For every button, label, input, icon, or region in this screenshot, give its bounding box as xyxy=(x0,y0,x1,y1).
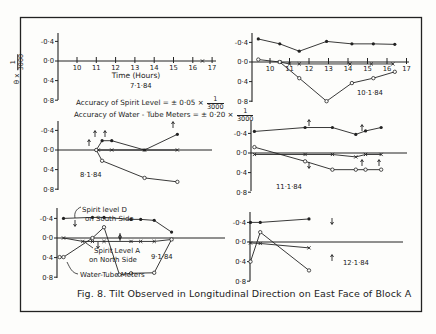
y-axis-fraction: 13000 xyxy=(10,54,24,71)
marker-filled xyxy=(153,219,156,222)
y-tick-label: -0·4 xyxy=(235,39,248,47)
event-arrow-icon xyxy=(94,131,97,138)
event-arrow-icon xyxy=(361,160,364,167)
panel-date-label: 11·1·84 xyxy=(276,183,302,191)
panel-date-label: 8·1·84 xyxy=(80,171,102,179)
marker-open xyxy=(325,100,328,103)
panel-date-label: 9·1·84 xyxy=(151,253,173,261)
marker-filled xyxy=(325,40,328,43)
marker-open xyxy=(364,168,367,171)
y-tick-label: 0·4 xyxy=(42,254,53,262)
marker-open xyxy=(307,269,310,272)
event-arrow-icon xyxy=(74,220,77,227)
event-arrow-icon xyxy=(104,131,107,138)
y-tick-label: 0·0 xyxy=(43,57,54,65)
y-tick-label: 0·4 xyxy=(43,77,54,85)
y-tick-label: 0·0 xyxy=(237,58,248,66)
marker-open xyxy=(249,260,252,263)
marker-filled xyxy=(331,126,334,129)
panel-date-label: 7·1·84 xyxy=(130,82,152,90)
annotation-spirit-level-d: Spirit level D xyxy=(82,206,127,214)
y-tick-label: -0·4 xyxy=(40,215,53,223)
event-arrow-icon xyxy=(172,122,175,129)
marker-filled xyxy=(298,50,301,53)
chart-panel-8·1·84: -0·40·00·40·88·1·84 xyxy=(41,121,212,194)
y-axis-label: θ x 13000 xyxy=(22,40,42,100)
event-arrow-icon xyxy=(378,160,381,167)
marker-filled xyxy=(364,129,367,132)
marker-open xyxy=(170,238,173,241)
y-tick-label: 0·8 xyxy=(43,186,54,194)
series-line xyxy=(251,232,310,270)
chart-panel-11·1·84: -0·40·00·40·811·1·84 xyxy=(234,121,407,197)
event-arrow-icon xyxy=(331,218,334,225)
marker-filled xyxy=(170,231,173,234)
x-tick-label: 17 xyxy=(402,65,411,73)
y-tick-label: 0·4 xyxy=(235,258,246,266)
y-tick-label: 0·0 xyxy=(235,238,246,246)
x-tick-label: 13 xyxy=(324,65,333,73)
x-tick-label: 16 xyxy=(188,64,197,72)
accuracy-water-tube: Accuracy of Water - Tube Meters = ± 0·20… xyxy=(74,108,253,122)
marker-open xyxy=(100,159,103,162)
marker-open xyxy=(62,255,65,258)
y-tick-label: 0·8 xyxy=(237,98,248,106)
marker-open xyxy=(143,176,146,179)
x-axis-label: Time (Hours) xyxy=(111,71,161,80)
y-tick-label: 0·4 xyxy=(236,169,247,177)
marker-filled xyxy=(249,221,252,224)
marker-filled xyxy=(257,37,260,40)
marker-filled xyxy=(253,130,256,133)
x-tick-label: 15 xyxy=(363,65,372,73)
figure-caption: Fig. 8. Tilt Observed in Longitudinal Di… xyxy=(77,288,411,299)
x-tick-label: 10 xyxy=(266,65,275,73)
y-tick-label: 0·0 xyxy=(43,146,54,154)
marker-filled xyxy=(110,139,113,142)
panel-date-label: 10·1·84 xyxy=(357,89,383,97)
x-tick-label: 11 xyxy=(92,64,101,72)
series-line xyxy=(96,150,177,182)
event-arrow-icon xyxy=(331,255,334,262)
x-tick-label: 16 xyxy=(383,65,392,73)
annotation-water-tube-meters: Water-Tube Meters xyxy=(80,271,145,279)
marker-filled xyxy=(354,133,357,136)
marker-filled xyxy=(259,221,262,224)
marker-open xyxy=(372,76,375,79)
event-arrow-icon xyxy=(308,120,311,127)
chart-panel-7·1·84: -0·40·00·40·81011121314151617Time (Hours… xyxy=(41,33,217,105)
marker-filled xyxy=(139,218,142,221)
x-tick-label: 11 xyxy=(285,65,294,73)
marker-open xyxy=(331,168,334,171)
y-tick-label: 0·0 xyxy=(236,149,247,157)
marker-open xyxy=(176,180,179,183)
event-arrow-icon xyxy=(361,125,364,132)
marker-filled xyxy=(100,139,103,142)
marker-open xyxy=(257,58,260,61)
y-tick-label: -0·4 xyxy=(41,127,54,135)
marker-open xyxy=(354,168,357,171)
marker-filled xyxy=(380,126,383,129)
marker-filled xyxy=(62,217,65,220)
series-line xyxy=(96,134,177,150)
y-tick-label: 0·8 xyxy=(43,97,54,105)
annotation-spirit-level-d-side: on South Side xyxy=(85,215,134,223)
y-tick-label: -0·4 xyxy=(41,38,54,46)
series-line xyxy=(254,147,381,170)
marker-open xyxy=(259,231,262,234)
marker-filled xyxy=(278,42,281,45)
marker-open xyxy=(379,168,382,171)
marker-open xyxy=(153,271,156,274)
y-tick-label: 0·4 xyxy=(237,78,248,86)
series-line xyxy=(254,154,381,156)
y-tick-label: 0·0 xyxy=(42,234,53,242)
x-tick-label: 15 xyxy=(169,64,178,72)
marker-filled xyxy=(307,217,310,220)
annotation-spirit-level-a: Spirit Level A xyxy=(94,247,140,255)
marker-open xyxy=(393,70,396,73)
marker-filled xyxy=(393,43,396,46)
chart-panel-12·1·84: -0·40·00·40·812·1·84 xyxy=(233,212,403,286)
figure-canvas: -0·40·00·40·81011121314151617Time (Hours… xyxy=(0,0,436,334)
annotation-spirit-level-a-side: on North Side xyxy=(89,256,137,264)
marker-open xyxy=(303,160,306,163)
x-tick-label: 14 xyxy=(344,65,353,73)
